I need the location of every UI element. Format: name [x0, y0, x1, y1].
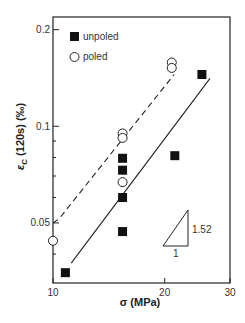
slope-triangle-shape: [163, 210, 188, 246]
point-poled: [167, 63, 176, 72]
point-poled: [118, 133, 127, 142]
legend-label-poled: poled: [83, 51, 107, 62]
legend: unpoled poled: [70, 31, 119, 62]
legend-marker-poled: [70, 53, 79, 62]
point-unpoled: [118, 193, 127, 202]
point-unpoled: [197, 70, 206, 79]
svg-text:εC (120s) (‰): εC (120s) (‰): [14, 102, 29, 170]
point-unpoled: [118, 154, 127, 163]
fit-line-poled: [53, 74, 174, 222]
y-tick-label: 0.05: [31, 217, 51, 228]
y-tick-label: 0.1: [36, 121, 50, 132]
data-points: [49, 58, 207, 277]
x-tick-label: 30: [224, 287, 236, 298]
plot-frame: [53, 17, 230, 283]
y-axis-title: εC (120s) (‰): [14, 102, 29, 170]
point-unpoled: [118, 227, 127, 236]
point-poled: [49, 236, 58, 245]
x-tick-label: 20: [159, 287, 171, 298]
point-unpoled: [61, 268, 70, 277]
axis-tick-labels: 1020300.050.10.2: [31, 24, 236, 298]
axis-ticks: [53, 30, 230, 283]
chart: 1020300.050.10.2 unpoled poled 1.52 1 σ …: [0, 0, 245, 323]
x-axis-title: σ (MPa): [120, 296, 161, 308]
legend-marker-unpoled: [70, 32, 79, 41]
y-tick-label: 0.2: [36, 24, 50, 35]
slope-label: 1.52: [192, 224, 212, 235]
point-poled: [118, 178, 127, 187]
y-axis-title-rest: (120s) (‰): [14, 102, 26, 159]
slope-triangle: 1.52 1: [163, 210, 212, 259]
point-unpoled: [118, 166, 127, 175]
run-label: 1: [173, 248, 179, 259]
fit-line-unpoled: [71, 78, 210, 263]
point-unpoled: [170, 151, 179, 160]
legend-label-unpoled: unpoled: [83, 31, 119, 42]
x-tick-label: 10: [47, 287, 59, 298]
